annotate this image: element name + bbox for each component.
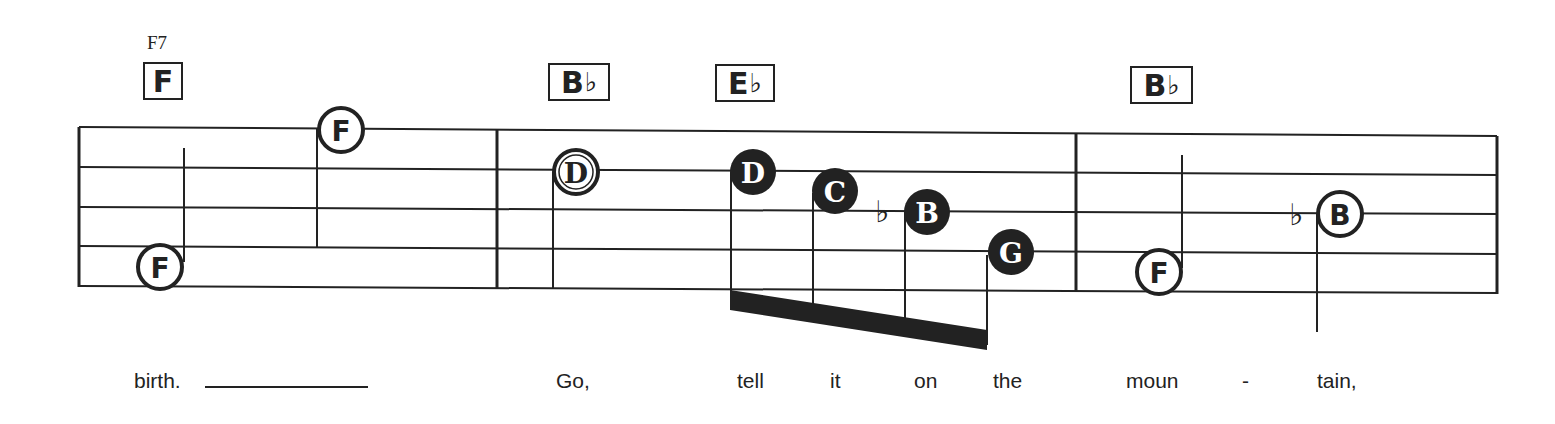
chord-box-bflat: B♭ xyxy=(548,63,610,101)
flat-icon: ♭ xyxy=(585,67,597,97)
note-D-open: D xyxy=(554,150,598,194)
note-D-filled: D xyxy=(730,149,776,195)
svg-text:D: D xyxy=(741,157,765,190)
chord-box-f: F xyxy=(143,62,183,100)
lyric-go: Go, xyxy=(556,369,590,393)
lyric-it: it xyxy=(830,369,841,393)
chord-symbol-f7: F7 xyxy=(147,32,167,54)
svg-text:F: F xyxy=(150,252,169,285)
svg-text:G: G xyxy=(999,237,1023,270)
svg-text:D: D xyxy=(564,157,588,190)
chord-box-eflat: E♭ xyxy=(715,64,775,102)
chord-root: F xyxy=(153,64,174,99)
note-B-open: B xyxy=(1318,192,1362,236)
lyric-birth: birth. xyxy=(134,369,181,393)
lyric-extender-line xyxy=(205,386,368,388)
flat-icon: ♭ xyxy=(1167,70,1179,100)
note-C-filled: C xyxy=(812,168,858,214)
flat-icon: ♭ xyxy=(875,194,889,229)
chord-root: B xyxy=(1143,68,1166,103)
svg-text:F: F xyxy=(331,115,350,148)
chord-box-bflat-2: B♭ xyxy=(1130,66,1193,104)
svg-text:C: C xyxy=(824,176,846,209)
music-staff: F F D D C ♭ B G F ♭ B xyxy=(0,0,1555,424)
chord-root: B xyxy=(561,65,584,100)
note-B-filled: B xyxy=(904,189,950,235)
flat-icon: ♭ xyxy=(750,68,762,98)
lyric-on: on xyxy=(914,369,937,393)
note-F-3: F xyxy=(1137,250,1181,294)
staff-lines xyxy=(79,127,1497,293)
svg-text:B: B xyxy=(915,197,939,230)
lyric-the: the xyxy=(993,369,1022,393)
chord-root: E xyxy=(728,66,749,101)
svg-text:F: F xyxy=(1149,257,1168,290)
svg-text:B: B xyxy=(1329,199,1350,232)
lyric-tell: tell xyxy=(737,369,764,393)
flat-icon: ♭ xyxy=(1289,197,1303,232)
beam xyxy=(730,290,987,350)
note-F-1: F xyxy=(138,245,182,289)
lyric-hyphen: - xyxy=(1242,369,1249,393)
lyric-moun: moun xyxy=(1126,369,1179,393)
note-F-2: F xyxy=(319,108,363,152)
note-G-filled: G xyxy=(988,229,1034,275)
lyric-tain: tain, xyxy=(1317,369,1357,393)
